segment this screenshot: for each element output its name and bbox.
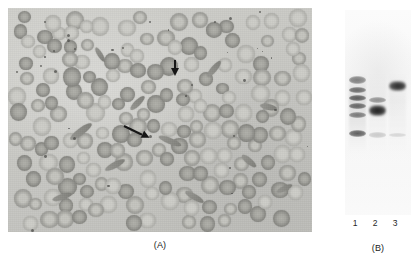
gel-lane-label-3: 3: [389, 218, 401, 228]
panel-a-caption: (A): [110, 240, 210, 250]
arrow-vertical-icon: [170, 60, 180, 78]
panel-b: [345, 10, 411, 215]
film-grain-overlay: [8, 8, 312, 232]
arrow-shaft: [124, 125, 143, 136]
panel-a: [8, 8, 312, 232]
arrow-head: [171, 68, 179, 76]
figure-root: (A) 123 (B): [0, 0, 414, 262]
electrophoresis-gel: [345, 10, 411, 215]
gel-shading-overlay: [345, 10, 411, 215]
gel-lane-label-2: 2: [369, 218, 381, 228]
blood-smear-micrograph: [8, 8, 312, 232]
gel-lane-label-1: 1: [349, 218, 361, 228]
arrow-head: [141, 131, 152, 142]
arrow-diagonal-icon: [124, 125, 154, 145]
panel-b-caption: (B): [345, 243, 411, 253]
